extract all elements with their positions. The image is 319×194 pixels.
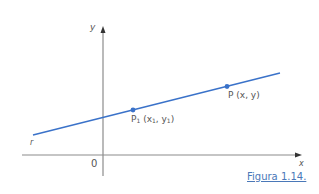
figure-canvas	[0, 0, 319, 194]
x-axis-arrow-icon	[295, 153, 302, 158]
line-r	[33, 73, 280, 135]
figure-caption: Figura 1.14.	[247, 172, 306, 182]
point-p-label: P (x, y)	[228, 91, 260, 100]
origin-label: 0	[91, 159, 97, 169]
point-p1-label: P1 (x1, y1)	[131, 115, 174, 124]
point-p1	[131, 108, 136, 113]
y-axis-arrow-icon	[101, 26, 106, 33]
point-p	[225, 84, 230, 89]
line-r-label: r	[30, 139, 33, 147]
y-axis-label: y	[90, 23, 95, 32]
x-axis-label: x	[299, 160, 304, 168]
point-p-coords: (x, y)	[233, 90, 259, 100]
